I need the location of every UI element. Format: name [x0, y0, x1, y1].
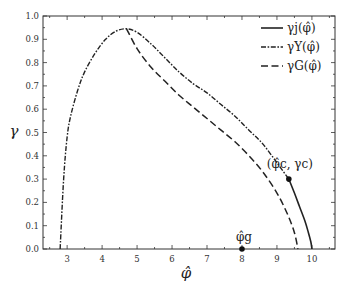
legend-label-2: γG(φ̂)	[287, 59, 322, 73]
y-tick-label: 1.0	[25, 11, 39, 21]
y-tick-label: 0.2	[25, 197, 39, 207]
x-tick-label: 8	[239, 254, 244, 264]
x-axis-label: φ̂	[181, 264, 192, 282]
x-tick-label: 6	[169, 254, 174, 264]
curves	[60, 29, 312, 249]
y-tick-label: 0.9	[25, 34, 39, 44]
curve-series-1	[60, 29, 289, 249]
y-tick-label: 0.0	[25, 244, 39, 254]
x-tick-label: 9	[274, 254, 279, 264]
x-tick-label: 3	[64, 254, 69, 264]
y-tick-label: 0.5	[25, 128, 39, 138]
phase-diagram-chart: 3456789100.00.10.20.30.40.50.60.70.80.91…	[0, 0, 343, 290]
y-tick-label: 0.4	[25, 151, 39, 161]
legend: γj(φ̂)γY(φ̂)γG(φ̂)	[261, 21, 322, 73]
annotations: (φ̂c, γc)φ̂g	[236, 157, 313, 252]
y-tick-label: 0.3	[25, 174, 39, 184]
x-tick-label: 4	[99, 254, 104, 264]
x-tick-label: 7	[204, 254, 209, 264]
x-tick-label: 5	[134, 254, 139, 264]
critical-point-label: (φ̂c, γc)	[267, 157, 313, 171]
curve-series-0	[289, 179, 312, 249]
glass-point-label: φ̂g	[236, 230, 252, 244]
y-tick-label: 0.1	[25, 221, 39, 231]
y-axis-label: γ	[10, 122, 19, 140]
glass-point-marker	[239, 246, 245, 252]
curve-series-2	[127, 29, 298, 249]
y-tick-label: 0.6	[25, 104, 39, 114]
legend-label-0: γj(φ̂)	[287, 21, 316, 35]
y-tick-label: 0.8	[25, 58, 39, 68]
critical-point-marker	[286, 176, 292, 182]
legend-label-1: γY(φ̂)	[287, 40, 320, 54]
y-tick-label: 0.7	[25, 81, 39, 91]
x-tick-label: 10	[307, 254, 318, 264]
